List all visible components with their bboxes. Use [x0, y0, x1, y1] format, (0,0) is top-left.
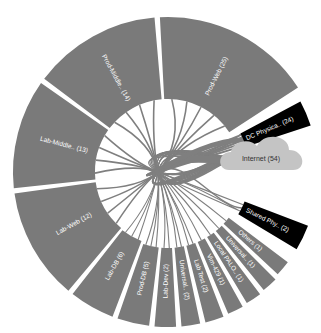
internet-label: Internet (54): [242, 155, 280, 163]
network-chord-diagram: Prod-Web (25)DC Physica.. (24)Shared Phy…: [0, 0, 321, 333]
segment-lab-dev[interactable]: Lab-Dev (2): [155, 248, 177, 327]
